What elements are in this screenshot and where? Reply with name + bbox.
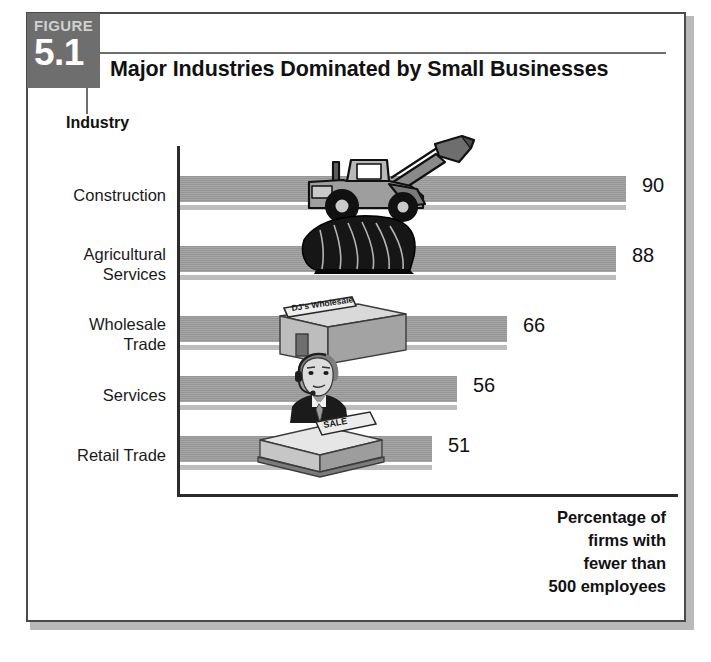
bar-retail-trade [180,436,432,470]
bar-row: Construction 90 [44,168,680,232]
page-title: Major Industries Dominated by Small Busi… [110,57,608,82]
bar-value-label: 88 [632,244,654,267]
bar-fill [180,176,626,202]
figure-number-badge: FIGURE 5.1 [27,13,100,88]
bar-row: Retail Trade 51 [44,428,680,492]
category-label-line: Services [44,264,166,284]
category-label-line: Wholesale [44,314,166,334]
category-label: Construction [44,185,166,205]
bar-fill [180,436,432,462]
caption-line: Percentage of [400,506,666,529]
bar-wholesale-trade [180,316,507,350]
x-axis-caption: Percentage of firms with fewer than 500 … [400,506,666,598]
figure-number-label: 5.1 [34,34,100,72]
bar-row: Services 56 [44,368,680,432]
bar-stripe [180,405,457,410]
plot-area: Construction 90 Agricultural Services 88… [44,146,680,498]
caption-line: fewer than [400,552,666,575]
bar-row: Agricultural Services 88 [44,238,680,302]
bar-value-label: 51 [448,434,470,457]
category-label: Agricultural Services [44,244,166,284]
figure-page: FIGURE 5.1 Major Industries Dominated by… [0,0,711,662]
category-label: Wholesale Trade [44,314,166,354]
category-label-line: Agricultural [44,244,166,264]
badge-vertical-rule [86,88,88,114]
bar-fill [180,316,507,342]
bar-fill [180,246,616,272]
caption-line: firms with [400,529,666,552]
bar-stripe [180,345,507,350]
bar-row: Wholesale Trade 66 [44,308,680,372]
category-label: Retail Trade [44,445,166,465]
x-axis-line [177,494,678,497]
bar-fill [180,376,457,402]
title-rule [100,52,666,54]
bar-value-label: 66 [523,314,545,337]
bar-stripe [180,465,432,470]
bar-value-label: 56 [473,374,495,397]
bar-construction [180,176,626,210]
bar-value-label: 90 [642,174,664,197]
y-axis-label: Industry [66,114,129,132]
category-label: Services [44,385,166,405]
caption-line: 500 employees [400,575,666,598]
category-label-line: Trade [44,334,166,354]
bar-stripe [180,275,616,280]
bar-stripe [180,205,626,210]
bar-agricultural-services [180,246,616,280]
bar-services [180,376,457,410]
